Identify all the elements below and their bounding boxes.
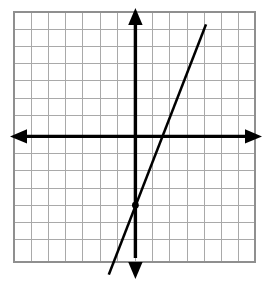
coordinate-plane-figure	[0, 0, 272, 287]
data-point-y-intercept	[132, 202, 139, 209]
coordinate-grid-screenshot: line y = 2x - 4 2 -4 2	[0, 0, 272, 287]
chart-type: line	[0, 0, 1, 1]
